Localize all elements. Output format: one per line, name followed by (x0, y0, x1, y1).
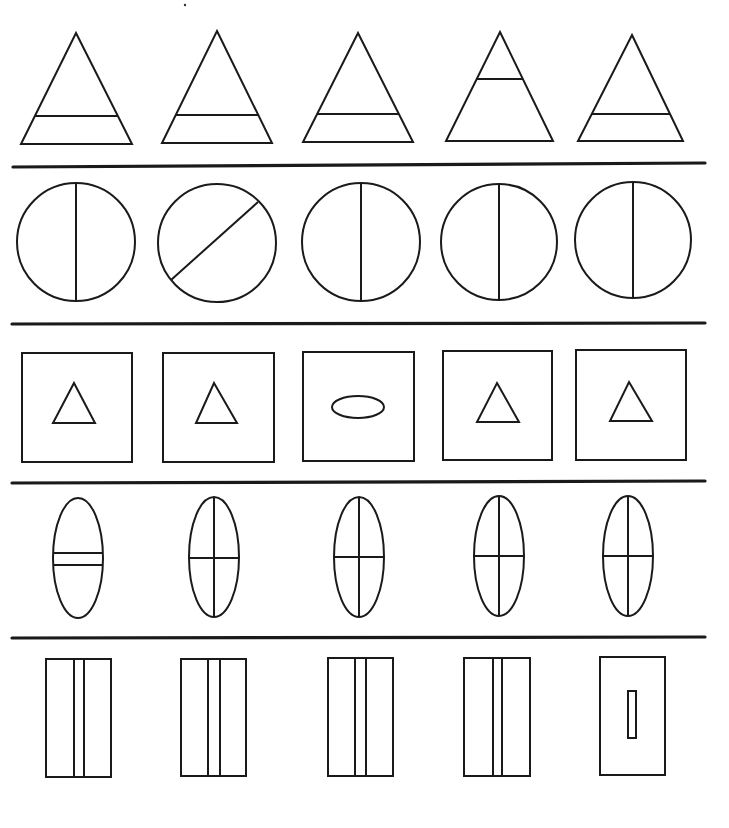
square-outline (576, 350, 686, 460)
inner-ellipse (332, 396, 384, 418)
square-outline (22, 353, 132, 462)
circle-outline (158, 184, 276, 302)
shape-rows (17, 31, 691, 777)
inner-triangle (53, 383, 95, 423)
rectangle-figure-5-odd[interactable] (600, 657, 665, 775)
rectangle-figure-4[interactable] (464, 658, 530, 776)
row-separator-2 (12, 323, 705, 324)
ellipse-figure-5[interactable] (603, 496, 653, 616)
rectangle-figure-2[interactable] (181, 659, 246, 776)
row-separator-3 (12, 481, 705, 483)
ellipse-figure-3[interactable] (334, 497, 384, 617)
circle-diagonal-divider (171, 202, 258, 280)
square-figure-4[interactable] (443, 351, 552, 460)
triangle-figure-2[interactable] (162, 31, 272, 143)
inner-triangle (196, 383, 237, 423)
circle-figure-1[interactable] (17, 183, 135, 301)
square-outline (163, 353, 274, 462)
circle-figure-2-odd[interactable] (158, 184, 276, 302)
ellipse-figure-1-odd[interactable] (53, 498, 103, 618)
rectangle-outline (181, 659, 246, 776)
inner-small-rectangle (628, 691, 636, 738)
ellipse-outline (53, 498, 103, 618)
circle-figure-5[interactable] (575, 182, 691, 298)
square-figure-3-odd[interactable] (303, 352, 414, 461)
rectangle-outline (600, 657, 665, 775)
rectangle-outline (464, 658, 530, 776)
row-separator-1 (13, 163, 705, 167)
speck-mark (184, 4, 186, 6)
square-figure-1[interactable] (22, 353, 132, 462)
inner-triangle (610, 382, 652, 421)
rectangle-figure-3[interactable] (328, 658, 393, 776)
triangle-outline (162, 31, 272, 143)
rectangle-figure-1[interactable] (46, 659, 111, 777)
square-figure-2[interactable] (163, 353, 274, 462)
rectangle-outline (46, 659, 111, 777)
row-rectangles (46, 657, 665, 777)
triangle-figure-4-odd[interactable] (446, 32, 553, 141)
ellipse-figure-2[interactable] (189, 497, 239, 617)
inner-triangle (477, 383, 519, 422)
triangle-outline (446, 32, 553, 141)
ellipse-figure-4[interactable] (474, 496, 524, 616)
row-circles (17, 182, 691, 302)
square-figure-5[interactable] (576, 350, 686, 460)
triangle-outline (303, 33, 413, 142)
square-outline (443, 351, 552, 460)
row-separator-4 (12, 637, 705, 638)
triangle-figure-5[interactable] (578, 35, 683, 141)
circle-figure-4[interactable] (441, 184, 557, 300)
row-squares (22, 350, 686, 462)
scan-specks (184, 4, 186, 6)
circle-figure-3[interactable] (302, 183, 420, 301)
triangle-figure-3[interactable] (303, 33, 413, 142)
triangle-figure-1[interactable] (21, 33, 132, 144)
triangle-outline (578, 35, 683, 141)
triangle-outline (21, 33, 132, 144)
row-ellipses (53, 496, 653, 618)
rectangle-outline (328, 658, 393, 776)
square-outline (303, 352, 414, 461)
row-triangles (21, 31, 683, 144)
worksheet-canvas (0, 0, 729, 828)
